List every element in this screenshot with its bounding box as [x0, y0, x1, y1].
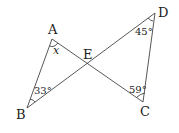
label-c: C [140, 104, 150, 119]
label-a: A [47, 22, 58, 37]
angle-c-value: 59° [129, 84, 147, 95]
diagram-canvas: A B C D E x 33° 59° 45° [0, 0, 179, 133]
angle-arc-d [148, 18, 153, 21]
segment-ab [27, 39, 52, 108]
geometry-diagram: A B C D E x 33° 59° 45° [0, 0, 179, 133]
label-b: B [16, 107, 26, 122]
angle-b-value: 33° [34, 85, 52, 96]
label-e: E [83, 47, 93, 62]
angle-d-value: 45° [135, 26, 153, 37]
label-d: D [158, 5, 168, 20]
angle-arc-b [30, 99, 35, 102]
angle-a-value: x [53, 44, 60, 57]
